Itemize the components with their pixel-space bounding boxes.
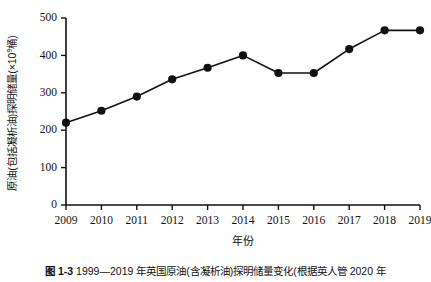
x-tick-label: 2010 [90, 214, 113, 226]
data-point [168, 75, 176, 83]
x-tick-label: 2011 [126, 214, 149, 226]
axis-lines [66, 18, 420, 205]
y-tick-label: 500 [40, 11, 58, 23]
data-point [381, 26, 389, 34]
data-point [62, 119, 70, 127]
y-tick-label: 300 [40, 86, 58, 98]
x-tick-label: 2017 [338, 214, 361, 226]
x-axis-ticks: 2009201020112012201320142015201620172018… [55, 205, 431, 226]
data-point [274, 69, 282, 77]
series-markers [62, 26, 424, 127]
data-point [310, 69, 318, 77]
figure-caption-text: 1999—2019 年英国原油(含凝析油)探明储量变化(根据英人管 2020 年 [76, 265, 386, 277]
figure-container: 0100200300400500 20092010201120122013201… [0, 0, 431, 282]
data-point [416, 26, 424, 34]
data-point [345, 45, 353, 53]
y-axis-title-text: 原油(包括凝析油)探明储量(×109桶) [6, 35, 18, 191]
x-tick-label: 2019 [409, 214, 431, 226]
y-axis-ticks: 0100200300400500 [40, 11, 66, 210]
y-tick-label: 100 [40, 161, 58, 173]
x-tick-label: 2009 [55, 214, 78, 226]
series-line [66, 30, 420, 122]
data-point [133, 92, 141, 100]
line-chart: 0100200300400500 20092010201120122013201… [0, 0, 431, 250]
x-axis-title: 年份 [232, 234, 254, 247]
y-axis-title-base: 原油(包括凝析油)探明储量(×10 [6, 53, 18, 191]
x-tick-label: 2015 [267, 214, 290, 226]
figure-caption-label: 图 1-3 [45, 265, 73, 277]
plot-area: 0100200300400500 20092010201120122013201… [0, 0, 431, 250]
data-point [97, 107, 105, 115]
y-axis-title-exponent: 9 [6, 49, 13, 53]
y-tick-label: 200 [40, 123, 58, 135]
y-tick-label: 0 [51, 198, 57, 210]
y-axis-title-tail: 桶) [6, 35, 18, 49]
x-tick-label: 2016 [302, 214, 325, 226]
x-tick-label: 2012 [161, 214, 184, 226]
x-tick-label: 2013 [196, 214, 219, 226]
y-axis-title: 原油(包括凝析油)探明储量(×109桶) [3, 6, 21, 221]
x-tick-label: 2014 [232, 214, 255, 226]
data-point [204, 64, 212, 72]
data-point [239, 51, 247, 59]
x-tick-label: 2018 [373, 214, 396, 226]
y-tick-label: 400 [40, 49, 58, 61]
figure-caption: 图 1-3 1999—2019 年英国原油(含凝析油)探明储量变化(根据英人管 … [0, 263, 431, 279]
